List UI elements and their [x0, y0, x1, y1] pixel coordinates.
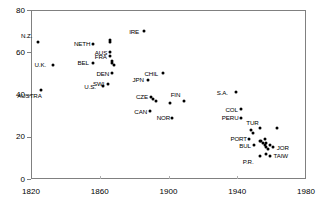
data-point	[258, 127, 261, 130]
data-point	[110, 72, 113, 75]
data-point	[162, 72, 165, 75]
data-point	[272, 146, 275, 149]
data-point	[169, 101, 172, 104]
y-tick-label: 80	[3, 6, 25, 15]
data-point-label: TUR	[246, 119, 258, 126]
y-tick-label: 20	[3, 132, 25, 141]
data-point	[267, 148, 270, 151]
scatter-chart: 020406080 18201860190019401980 N.Z.U.K.A…	[0, 0, 327, 206]
data-point	[253, 144, 256, 147]
x-tick-label: 1900	[154, 187, 184, 196]
data-point	[36, 40, 39, 43]
y-tick-label: 60	[3, 48, 25, 57]
data-point	[275, 127, 278, 130]
y-tick-mark	[27, 10, 31, 11]
data-point-label: P.R.	[243, 158, 254, 165]
data-point-label: PERU	[222, 114, 239, 121]
data-point	[148, 110, 151, 113]
data-point-label: DEN	[96, 70, 109, 77]
data-point	[107, 82, 110, 85]
data-point	[91, 42, 94, 45]
data-point-label: TAIW	[273, 152, 288, 159]
data-point-label: S.A.	[217, 89, 228, 96]
data-point-label: CAN	[134, 108, 147, 115]
data-point-label: BUL	[239, 142, 251, 149]
x-tick-label: 1860	[85, 187, 115, 196]
data-point-label: JOR	[277, 144, 289, 151]
data-point	[109, 55, 112, 58]
data-point-label: COL	[225, 106, 237, 113]
data-point	[155, 99, 158, 102]
data-point-label: NOR	[157, 114, 170, 121]
x-tick-mark	[169, 176, 170, 179]
data-point	[91, 61, 94, 64]
data-point-label: U.K.	[34, 61, 46, 68]
data-point-label: IRE	[129, 28, 139, 35]
data-point	[239, 108, 242, 111]
data-point	[268, 154, 271, 157]
data-point-label: N.Z.	[21, 32, 32, 39]
x-tick-label: 1980	[291, 187, 321, 196]
data-point	[52, 63, 55, 66]
data-point	[109, 40, 112, 43]
data-point-label: FIN	[171, 91, 181, 98]
data-point	[112, 63, 115, 66]
x-tick-mark	[237, 176, 238, 179]
data-point	[258, 154, 261, 157]
data-point	[146, 78, 149, 81]
data-point-label: NETH	[74, 40, 90, 47]
data-point-label: AUSTRA	[17, 92, 42, 99]
data-point-label: CHIL	[144, 70, 158, 77]
data-point	[251, 131, 254, 134]
x-tick-mark	[100, 176, 101, 179]
data-point	[109, 51, 112, 54]
y-tick-mark	[27, 137, 31, 138]
data-point	[182, 99, 185, 102]
data-point	[248, 137, 251, 140]
data-point	[263, 137, 266, 140]
data-point-label: BEL	[78, 59, 89, 66]
y-tick-mark	[27, 179, 31, 180]
x-tick-label: 1820	[16, 187, 46, 196]
data-point-label: FRA	[95, 53, 107, 60]
data-point-label: JPN	[133, 76, 144, 83]
data-point-label: CZE	[136, 93, 148, 100]
data-point	[143, 30, 146, 33]
y-tick-mark	[27, 52, 31, 53]
y-tick-label: 0	[3, 175, 25, 184]
data-point	[239, 116, 242, 119]
data-point	[234, 91, 237, 94]
data-point	[170, 116, 173, 119]
data-point-label: SWI	[93, 80, 104, 87]
x-tick-label: 1940	[222, 187, 252, 196]
